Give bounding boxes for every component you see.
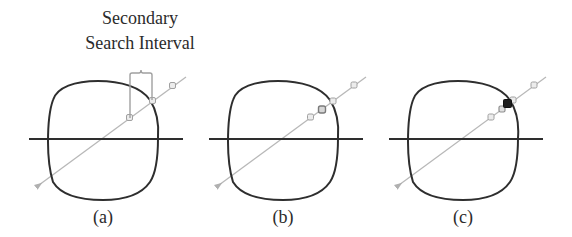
panel-c <box>389 77 546 200</box>
secondary-search-figure: Secondary Search Interval <box>0 0 572 237</box>
sample-point-icon <box>531 82 537 88</box>
figure-canvas <box>0 0 572 237</box>
sample-point-emphasized-icon <box>319 106 326 113</box>
panel-a-label: (a) <box>83 206 123 228</box>
panel-a <box>29 70 186 200</box>
sample-point-icon <box>351 82 357 88</box>
sample-point-icon <box>308 114 314 120</box>
panel-b <box>209 77 366 200</box>
sample-point-icon <box>330 98 336 104</box>
sample-point-icon <box>170 83 176 89</box>
sample-point-icon <box>488 114 494 120</box>
hit-point-icon <box>504 100 512 108</box>
panel-c-label: (c) <box>443 206 483 228</box>
panel-b-label: (b) <box>263 206 303 228</box>
